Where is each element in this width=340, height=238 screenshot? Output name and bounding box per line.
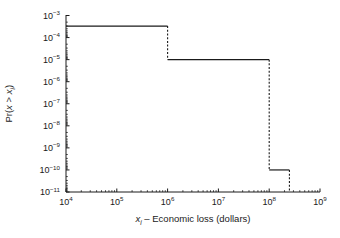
y-tick-label-8: 10−11	[40, 186, 61, 198]
y-tick-label-3: 10−6	[43, 75, 61, 87]
x-tick-label-7: 107	[212, 195, 226, 207]
y-tick-label-1: 10−4	[43, 31, 61, 43]
x-tick-label-8: 108	[262, 195, 276, 207]
y-tick-label-5: 10−8	[43, 119, 61, 131]
y-tick-label-2: 10−5	[43, 53, 61, 65]
x-tick-label-9: 109	[313, 195, 327, 207]
x-tick-label-5: 105	[110, 195, 124, 207]
y-tick-label-0: 10−3	[43, 9, 61, 21]
chart-figure: 10410510610710810910−310−410−510−610−710…	[0, 0, 340, 238]
x-tick-label-4: 104	[59, 195, 73, 207]
y-tick-label-6: 10−9	[43, 141, 61, 153]
y-tick-label-4: 10−7	[43, 97, 61, 109]
exceedance-probability-chart: 10410510610710810910−310−410−510−610−710…	[0, 0, 340, 238]
x-tick-label-6: 106	[161, 195, 175, 207]
x-axis-title: xi – Economic loss (dollars)	[135, 213, 251, 226]
y-tick-label-7: 10−10	[39, 164, 60, 176]
y-axis-title: Pr(x > xi)	[3, 85, 16, 123]
